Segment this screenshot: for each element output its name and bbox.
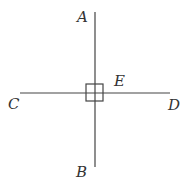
label-a: A xyxy=(75,8,88,26)
label-e: E xyxy=(113,72,125,90)
diagram-svg: A B C D E xyxy=(0,0,187,186)
label-c: C xyxy=(8,95,20,113)
geometry-diagram: A B C D E xyxy=(0,0,187,186)
label-d: D xyxy=(167,96,180,114)
label-b: B xyxy=(75,163,87,181)
